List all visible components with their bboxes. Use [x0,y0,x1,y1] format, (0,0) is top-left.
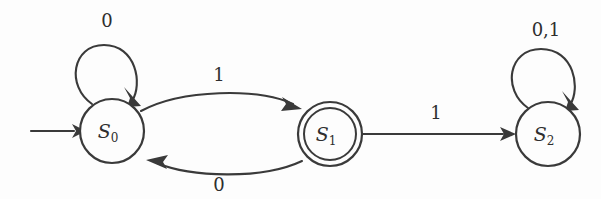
state-machine-diagram: S0 S1 S2 0 1 0 1 0,1 [0,0,601,199]
state-s2-label-base: S [534,123,547,145]
transition-s1-s0 [146,155,302,174]
edge-s0-s1-arrowhead [281,97,302,111]
state-s1-label-sub: 1 [329,134,337,148]
state-s2-label-sub: 2 [547,134,555,148]
self-loop-s0-path [76,45,137,104]
edge-label-s0-self: 0 [101,10,112,31]
transition-s1-s2 [363,127,516,141]
fsm-canvas: S0 S1 S2 0 1 0 1 0,1 [0,0,601,199]
edge-label-s2-self: 0,1 [532,19,561,40]
self-loop-s2-path [512,49,575,108]
state-s0-label-sub: 0 [111,131,119,145]
start-arrow [31,124,86,138]
edge-s1-s0-path [157,161,302,174]
edge-label-s1-s2: 1 [430,102,441,123]
state-s1[interactable]: S1 [298,102,362,166]
transition-s0-s1 [141,93,302,111]
edge-label-s1-s0: 0 [213,174,224,195]
state-s0[interactable]: S0 [80,99,144,163]
edge-s1-s0-arrowhead [146,155,168,169]
edge-label-s0-s1: 1 [213,64,224,85]
state-s2[interactable]: S2 [516,102,580,166]
transition-s0-s0 [76,45,141,107]
edge-s0-s1-path [141,93,293,111]
state-s1-label-base: S [316,123,329,145]
state-s0-label-base: S [98,120,111,142]
